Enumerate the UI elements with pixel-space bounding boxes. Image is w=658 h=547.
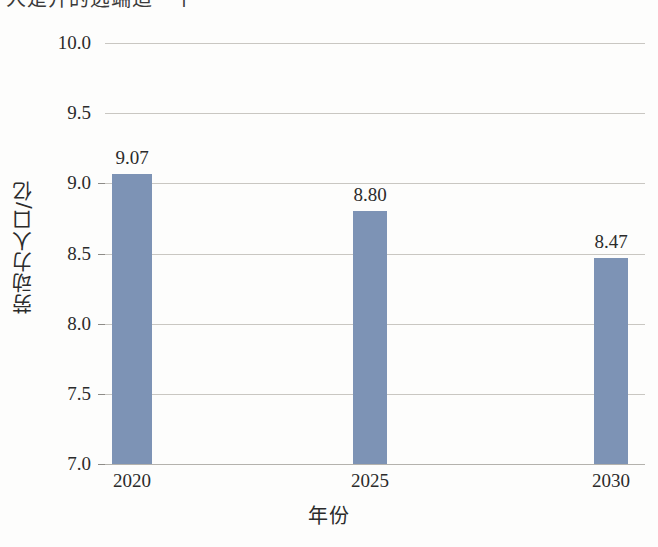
x-axis-tick-label: 2025 bbox=[351, 470, 389, 492]
y-axis-tick-label: 10.0 bbox=[58, 32, 91, 54]
x-axis-title: 年份 bbox=[0, 500, 658, 529]
bar-value-label: 8.47 bbox=[594, 231, 627, 253]
bar[interactable] bbox=[594, 258, 628, 464]
gridline bbox=[105, 464, 645, 465]
y-axis-tick-labels: 7.07.58.08.59.09.510.0 bbox=[0, 0, 105, 547]
bar-value-label: 9.07 bbox=[115, 147, 148, 169]
gridline bbox=[105, 43, 645, 44]
y-axis-tick-mark bbox=[98, 183, 105, 184]
y-axis-tick-mark bbox=[98, 394, 105, 395]
y-axis-tick-mark bbox=[98, 464, 105, 465]
y-axis-tick-label: 7.0 bbox=[67, 453, 91, 475]
gridline bbox=[105, 113, 645, 114]
x-axis-tick-label: 2020 bbox=[113, 470, 151, 492]
bar[interactable] bbox=[112, 174, 152, 464]
y-axis-tick-label: 8.0 bbox=[67, 313, 91, 335]
y-axis-tick-label: 7.5 bbox=[67, 383, 91, 405]
x-axis-tick-label: 2030 bbox=[592, 470, 630, 492]
bar-value-label: 8.80 bbox=[353, 184, 386, 206]
bar-chart: 劳动力人口/亿 7.07.58.08.59.09.510.0 9.078.808… bbox=[0, 0, 658, 547]
y-axis-tick-label: 9.0 bbox=[67, 172, 91, 194]
plot-area: 9.078.808.47 bbox=[105, 43, 645, 464]
y-axis-tick-mark bbox=[98, 324, 105, 325]
y-axis-tick-mark bbox=[98, 254, 105, 255]
y-axis-tick-label: 9.5 bbox=[67, 102, 91, 124]
bar[interactable] bbox=[353, 211, 387, 464]
y-axis-tick-label: 8.5 bbox=[67, 243, 91, 265]
